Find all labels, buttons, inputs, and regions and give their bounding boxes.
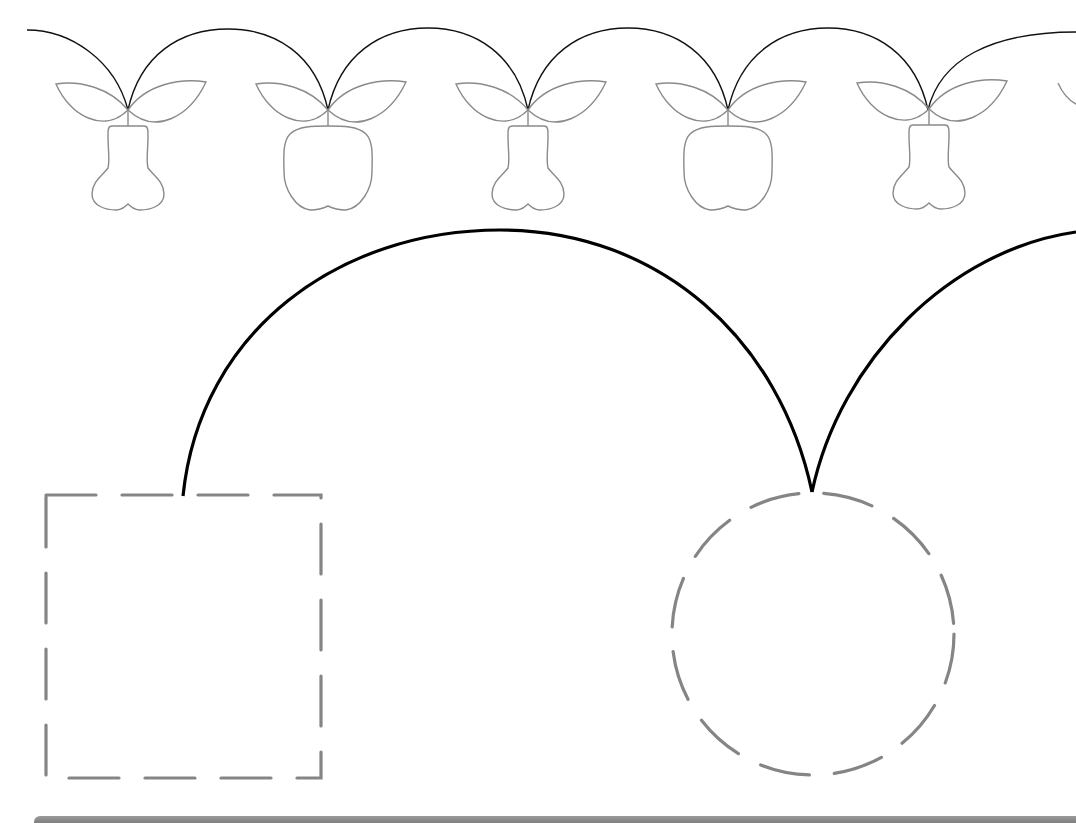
dashed-circle <box>672 493 954 775</box>
top-arc-2 <box>328 28 528 110</box>
large-arc <box>183 230 812 496</box>
large-arc-continuation <box>812 232 1076 492</box>
worksheet-canvas <box>0 0 1076 823</box>
top-arc-5 <box>928 32 1076 110</box>
top-arc-3 <box>528 28 728 110</box>
dashed-square <box>46 495 321 778</box>
top-arc-1 <box>128 29 328 110</box>
bottom-bar <box>34 816 1076 823</box>
leaf-partial-icon <box>1058 83 1076 104</box>
top-arc-0 <box>27 30 128 110</box>
top-arc-4 <box>728 28 928 110</box>
